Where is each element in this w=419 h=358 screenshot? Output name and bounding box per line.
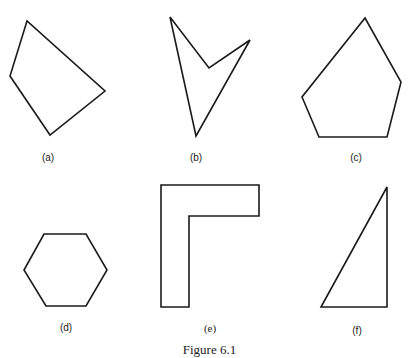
label-b: (b) [190, 152, 202, 163]
shape-b-arrowhead [170, 17, 250, 136]
label-e: (e) [204, 322, 216, 334]
shape-f-right-triangle [321, 187, 387, 307]
shape-d-hexagon [24, 234, 107, 306]
shape-c-pentagon [302, 18, 401, 137]
label-c: (c) [350, 152, 362, 163]
figure-caption: Figure 6.1 [183, 342, 236, 358]
shape-e-l-shape [161, 185, 259, 307]
shape-a-quadrilateral [10, 21, 105, 135]
figure-canvas [0, 0, 419, 358]
label-a: (a) [42, 152, 54, 163]
label-d: (d) [60, 322, 72, 333]
label-f: (f) [352, 325, 361, 336]
